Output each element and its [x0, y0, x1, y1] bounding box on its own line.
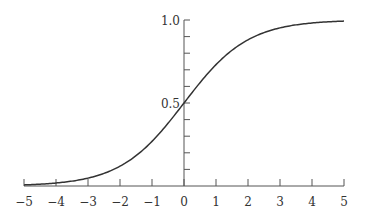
x-tick-label: −3 [79, 195, 97, 209]
x-tick-label: 5 [340, 195, 348, 209]
x-tick-label: 0 [180, 195, 188, 209]
sigmoid-chart: −5−4−3−2−1012345 0.51.0 [0, 0, 365, 217]
y-tick-label: 0.5 [161, 97, 180, 111]
x-tick-label: 3 [276, 195, 284, 209]
y-tick-label: 1.0 [161, 14, 180, 28]
x-tick-label: −4 [47, 195, 65, 209]
x-tick-label: −2 [111, 195, 129, 209]
x-tick-label: 4 [308, 195, 316, 209]
x-tick-label: 1 [212, 195, 220, 209]
x-tick-label: −5 [15, 195, 33, 209]
x-tick-label: −1 [143, 195, 161, 209]
x-tick-label: 2 [244, 195, 252, 209]
x-axis: −5−4−3−2−1012345 [15, 179, 348, 209]
